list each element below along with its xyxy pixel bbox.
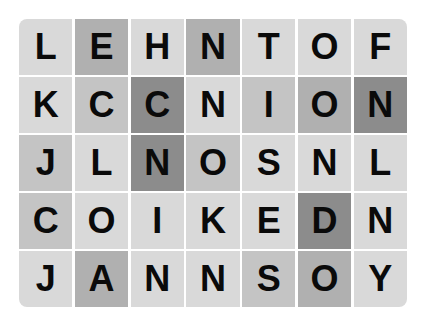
grid-cell-r5-c6[interactable]: O — [298, 251, 351, 307]
grid-cell-r5-c3[interactable]: N — [131, 251, 184, 307]
grid-cell-r5-c1[interactable]: J — [19, 251, 72, 307]
grid-cell-r4-c2[interactable]: O — [75, 193, 128, 249]
letter-grid: LEHNTOFKCCNIONJLNOSNLCOIKEDNJANNSOY — [19, 19, 407, 307]
grid-cell-r5-c2[interactable]: A — [75, 251, 128, 307]
grid-cell-r1-c3[interactable]: H — [131, 19, 184, 75]
grid-cell-r3-c6[interactable]: N — [298, 135, 351, 191]
grid-cell-r1-c5[interactable]: T — [242, 19, 295, 75]
grid-cell-r2-c6[interactable]: O — [298, 77, 351, 133]
grid-cell-r2-c4[interactable]: N — [186, 77, 239, 133]
grid-cell-r4-c1[interactable]: C — [19, 193, 72, 249]
grid-cell-r2-c1[interactable]: K — [19, 77, 72, 133]
grid-cell-r3-c3[interactable]: N — [131, 135, 184, 191]
grid-cell-r1-c6[interactable]: O — [298, 19, 351, 75]
grid-cell-r5-c4[interactable]: N — [186, 251, 239, 307]
grid-cell-r3-c7[interactable]: L — [354, 135, 407, 191]
grid-cell-r4-c7[interactable]: N — [354, 193, 407, 249]
grid-cell-r3-c4[interactable]: O — [186, 135, 239, 191]
grid-cell-r4-c3[interactable]: I — [131, 193, 184, 249]
grid-cell-r2-c7[interactable]: N — [354, 77, 407, 133]
grid-cell-r2-c5[interactable]: I — [242, 77, 295, 133]
grid-cell-r4-c5[interactable]: E — [242, 193, 295, 249]
grid-cell-r3-c1[interactable]: J — [19, 135, 72, 191]
grid-cell-r3-c5[interactable]: S — [242, 135, 295, 191]
grid-cell-r1-c7[interactable]: F — [354, 19, 407, 75]
grid-cell-r4-c4[interactable]: K — [186, 193, 239, 249]
grid-cell-r5-c5[interactable]: S — [242, 251, 295, 307]
grid-cell-r1-c4[interactable]: N — [186, 19, 239, 75]
grid-cell-r2-c2[interactable]: C — [75, 77, 128, 133]
grid-cell-r5-c7[interactable]: Y — [354, 251, 407, 307]
grid-cell-r2-c3[interactable]: C — [131, 77, 184, 133]
grid-cell-r1-c1[interactable]: L — [19, 19, 72, 75]
grid-cell-r4-c6[interactable]: D — [298, 193, 351, 249]
grid-cell-r3-c2[interactable]: L — [75, 135, 128, 191]
grid-cell-r1-c2[interactable]: E — [75, 19, 128, 75]
